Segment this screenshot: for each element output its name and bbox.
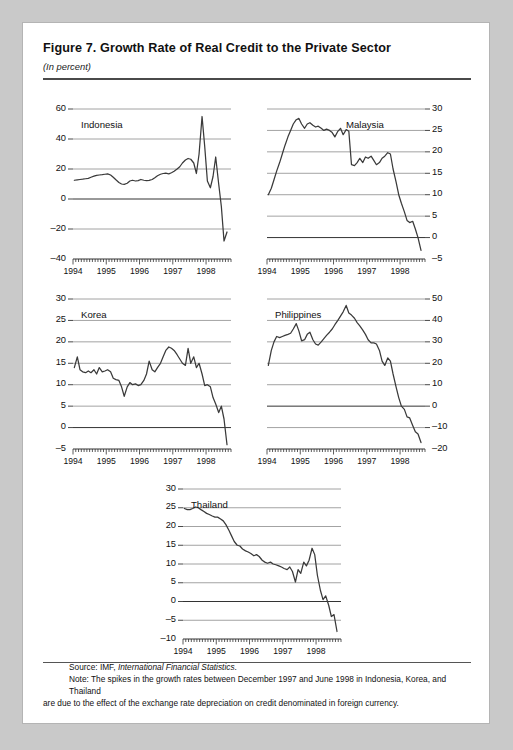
y-tick-label-philippines-5: 30: [432, 336, 459, 345]
x-tick-label-indonesia-1: 1995: [90, 266, 122, 276]
y-tick-label-malaysia-7: 30: [432, 104, 459, 113]
chart-title-thailand: Thailand: [191, 499, 228, 510]
y-tick-label-philippines-4: 20: [432, 358, 459, 367]
y-tick-label-malaysia-2: 5: [432, 211, 459, 220]
x-tick-label-philippines-4: 1998: [384, 456, 416, 466]
y-tick-label-indonesia-4: 40: [39, 134, 66, 143]
chart-panel-philippines: –20–100102030405019941995199619971998Phi…: [259, 291, 459, 471]
x-tick-label-thailand-2: 1996: [234, 646, 266, 656]
y-tick-label-korea-2: 5: [39, 401, 66, 410]
x-tick-label-philippines-3: 1997: [351, 456, 383, 466]
y-tick-label-indonesia-2: 0: [39, 194, 66, 203]
source-publication: International Financial Statistics: [118, 662, 235, 672]
y-tick-label-korea-5: 20: [39, 336, 66, 345]
y-tick-label-philippines-7: 50: [432, 294, 459, 303]
x-tick-label-thailand-3: 1997: [267, 646, 299, 656]
chart-panel-thailand: –10–505101520253019941995199619971998Tha…: [149, 481, 349, 661]
figure-subtitle: (In percent): [43, 61, 91, 72]
y-tick-label-thailand-6: 20: [149, 521, 176, 530]
series-line-korea: [74, 347, 227, 445]
x-tick-label-korea-1: 1995: [90, 456, 122, 466]
y-tick-label-indonesia-3: 20: [39, 164, 66, 173]
y-tick-label-korea-4: 15: [39, 358, 66, 367]
x-tick-label-korea-4: 1998: [190, 456, 222, 466]
x-tick-label-indonesia-2: 1996: [124, 266, 156, 276]
source-line: Source: IMF, International Financial Sta…: [69, 661, 473, 673]
y-tick-label-thailand-5: 15: [149, 540, 176, 549]
y-tick-label-malaysia-1: 0: [432, 232, 459, 241]
y-tick-label-indonesia-0: –40: [39, 254, 66, 263]
figure-notes: Source: IMF, International Financial Sta…: [43, 661, 473, 709]
y-tick-label-thailand-1: –5: [149, 615, 176, 624]
x-tick-label-korea-0: 1994: [57, 456, 89, 466]
x-tick-label-malaysia-1: 1995: [284, 266, 316, 276]
chart-title-philippines: Philippines: [275, 309, 321, 320]
x-tick-label-thailand-1: 1995: [200, 646, 232, 656]
series-line-philippines: [268, 305, 421, 442]
figure-title: Figure 7. Growth Rate of Real Credit to …: [43, 41, 391, 55]
note-line-1: Note: The spikes in the growth rates bet…: [69, 673, 473, 697]
x-tick-label-korea-2: 1996: [124, 456, 156, 466]
x-tick-label-philippines-2: 1996: [318, 456, 350, 466]
x-tick-label-malaysia-0: 1994: [251, 266, 283, 276]
x-tick-label-malaysia-2: 1996: [318, 266, 350, 276]
note-line-2: are due to the effect of the exchange ra…: [43, 697, 473, 709]
y-tick-label-thailand-0: –10: [149, 634, 176, 643]
y-tick-label-philippines-6: 40: [432, 315, 459, 324]
y-tick-label-thailand-2: 0: [149, 596, 176, 605]
y-tick-label-indonesia-1: –20: [39, 224, 66, 233]
y-tick-label-thailand-8: 30: [149, 484, 176, 493]
y-tick-label-korea-7: 30: [39, 294, 66, 303]
x-tick-label-indonesia-0: 1994: [57, 266, 89, 276]
x-tick-label-philippines-1: 1995: [284, 456, 316, 466]
y-tick-label-philippines-3: 10: [432, 379, 459, 388]
chart-panel-indonesia: –40–20020406019941995199619971998Indones…: [39, 101, 239, 281]
chart-title-malaysia: Malaysia: [346, 119, 384, 130]
chart-panel-korea: –505101520253019941995199619971998Korea: [39, 291, 239, 471]
x-tick-label-malaysia-4: 1998: [384, 266, 416, 276]
title-divider: [43, 78, 471, 80]
y-tick-label-philippines-0: –20: [432, 444, 459, 453]
y-tick-label-thailand-3: 5: [149, 577, 176, 586]
chart-title-indonesia: Indonesia: [81, 119, 123, 130]
x-tick-label-korea-3: 1997: [157, 456, 189, 466]
y-tick-label-indonesia-5: 60: [39, 104, 66, 113]
y-tick-label-malaysia-3: 10: [432, 189, 459, 198]
chart-svg-thailand: [149, 481, 349, 661]
y-tick-label-malaysia-5: 20: [432, 146, 459, 155]
y-tick-label-thailand-7: 25: [149, 502, 176, 511]
y-tick-label-korea-1: 0: [39, 422, 66, 431]
x-tick-label-thailand-0: 1994: [167, 646, 199, 656]
y-tick-label-philippines-1: –10: [432, 422, 459, 431]
series-line-thailand: [184, 507, 337, 632]
y-tick-label-korea-3: 10: [39, 379, 66, 388]
x-tick-label-indonesia-3: 1997: [157, 266, 189, 276]
chart-panel-malaysia: –505101520253019941995199619971998Malays…: [259, 101, 459, 281]
source-prefix: Source: IMF,: [69, 662, 118, 672]
y-tick-label-korea-0: –5: [39, 444, 66, 453]
y-tick-label-malaysia-4: 15: [432, 168, 459, 177]
x-tick-label-thailand-4: 1998: [300, 646, 332, 656]
y-tick-label-malaysia-6: 25: [432, 125, 459, 134]
series-line-indonesia: [74, 117, 227, 242]
y-tick-label-thailand-4: 10: [149, 559, 176, 568]
series-line-malaysia: [268, 118, 421, 250]
chart-title-korea: Korea: [81, 309, 107, 320]
figure-card: Figure 7. Growth Rate of Real Credit to …: [22, 22, 490, 724]
y-tick-label-philippines-2: 0: [432, 401, 459, 410]
x-tick-label-malaysia-3: 1997: [351, 266, 383, 276]
chart-svg-indonesia: [39, 101, 239, 281]
x-tick-label-philippines-0: 1994: [251, 456, 283, 466]
y-tick-label-korea-6: 25: [39, 315, 66, 324]
x-tick-label-indonesia-4: 1998: [190, 266, 222, 276]
y-tick-label-malaysia-0: –5: [432, 254, 459, 263]
source-suffix: .: [235, 662, 237, 672]
chart-svg-korea: [39, 291, 239, 471]
